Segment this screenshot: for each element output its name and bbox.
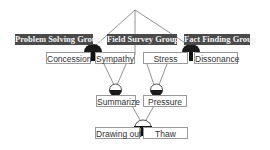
node-concession: Concession <box>46 52 91 64</box>
problem-solving-group-label: Problem Solving Group <box>15 34 93 45</box>
node-drawing-out: Drawing out <box>95 127 140 139</box>
node-thaw: Thaw <box>143 127 188 139</box>
node-summarize: Summarize <box>96 95 136 107</box>
node-dissonance: Dissonance <box>194 52 238 64</box>
field-survey-group-label: Field Survey Group <box>107 34 177 45</box>
node-pressure: Pressure <box>143 95 187 107</box>
node-stress: Stress <box>143 52 188 64</box>
node-sympathy: Sympathy <box>95 52 135 64</box>
fact-finding-group-label: Fact Finding Group <box>184 34 250 45</box>
